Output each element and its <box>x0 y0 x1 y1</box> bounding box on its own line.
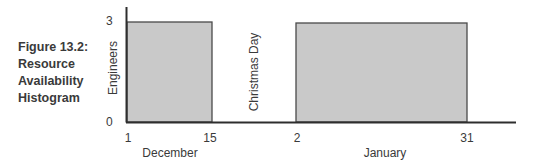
y-tick-3: 3 <box>106 14 113 28</box>
christmas-day-annotation: Christmas Day <box>247 33 261 112</box>
x-tick-jan-2: 2 <box>294 131 301 145</box>
y-tick-0: 0 <box>106 115 113 129</box>
histogram-chart: 3 0 Engineers Christmas Day 1 15 2 31 De… <box>0 0 533 167</box>
month-label-december: December <box>142 146 197 160</box>
bar-december <box>127 22 212 122</box>
y-axis-label: Engineers <box>106 41 120 95</box>
month-label-january: January <box>364 146 407 160</box>
x-tick-dec-1: 1 <box>125 131 132 145</box>
x-tick-jan-31: 31 <box>460 131 474 145</box>
x-tick-dec-15: 15 <box>203 131 217 145</box>
bar-january <box>296 23 467 122</box>
